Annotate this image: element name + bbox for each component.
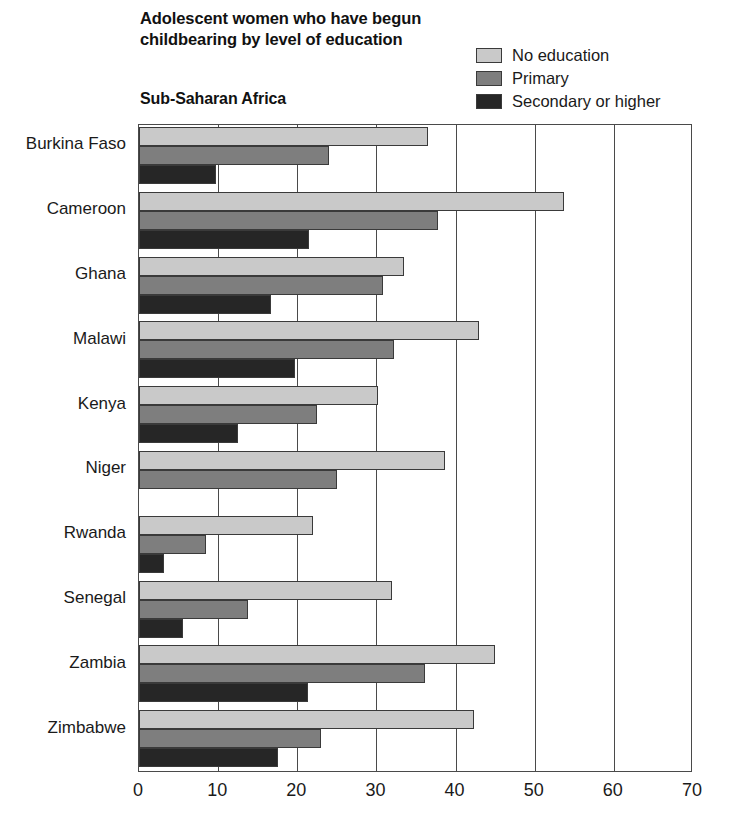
y-axis-label: Kenya [78, 394, 126, 414]
bar[interactable] [139, 230, 309, 249]
bar[interactable] [139, 321, 479, 340]
y-axis-label: Zambia [69, 653, 126, 673]
bar[interactable] [139, 359, 295, 378]
bar[interactable] [139, 470, 337, 489]
bar[interactable] [139, 257, 404, 276]
bar-group [139, 125, 691, 190]
legend-item[interactable]: No education [476, 44, 726, 67]
x-axis-tick-label: 50 [524, 780, 544, 801]
y-axis-label: Malawi [73, 329, 126, 349]
bar-group [139, 255, 691, 320]
x-axis-tick-label: 40 [445, 780, 465, 801]
bar[interactable] [139, 535, 206, 554]
legend-swatch-icon [476, 71, 502, 86]
chart-title-line-2: childbearing by level of education [140, 29, 470, 50]
x-axis-tick-label: 10 [207, 780, 227, 801]
bar[interactable] [139, 645, 495, 664]
y-axis-label: Cameroon [47, 199, 126, 219]
y-axis-label: Rwanda [64, 523, 126, 543]
legend-item[interactable]: Primary [476, 67, 726, 90]
bar[interactable] [139, 340, 394, 359]
bar[interactable] [139, 748, 278, 767]
bar[interactable] [139, 276, 383, 295]
bar-group [139, 449, 691, 514]
y-axis-label: Niger [85, 458, 126, 478]
bar[interactable] [139, 211, 438, 230]
x-axis-tick-label: 20 [286, 780, 306, 801]
y-axis-label: Senegal [64, 588, 126, 608]
y-axis-label: Ghana [75, 264, 126, 284]
legend-label: No education [512, 46, 609, 65]
bar-group [139, 384, 691, 449]
bar[interactable] [139, 729, 321, 748]
legend-swatch-icon [476, 94, 502, 109]
chart-subtitle: Sub-Saharan Africa [140, 90, 286, 108]
x-axis-tick-label: 60 [603, 780, 623, 801]
bar[interactable] [139, 405, 317, 424]
bar-group [139, 319, 691, 384]
bar[interactable] [139, 554, 164, 573]
bar[interactable] [139, 295, 271, 314]
bar[interactable] [139, 192, 564, 211]
bar[interactable] [139, 683, 308, 702]
bar-groups [139, 125, 691, 771]
bar[interactable] [139, 165, 216, 184]
bar-group [139, 708, 691, 773]
legend-item[interactable]: Secondary or higher [476, 90, 726, 113]
x-axis-tick-label: 0 [133, 780, 143, 801]
bar[interactable] [139, 710, 474, 729]
bar-group [139, 579, 691, 644]
x-axis-labels: 010203040506070 [0, 780, 733, 810]
y-axis-label: Burkina Faso [26, 134, 126, 154]
bar[interactable] [139, 451, 445, 470]
bar[interactable] [139, 619, 183, 638]
bar[interactable] [139, 600, 248, 619]
legend-label: Primary [512, 69, 569, 88]
bar[interactable] [139, 424, 238, 443]
y-axis-label: Zimbabwe [48, 718, 126, 738]
bar[interactable] [139, 146, 329, 165]
chart-legend: No educationPrimarySecondary or higher [476, 44, 726, 113]
bar[interactable] [139, 516, 313, 535]
x-axis-tick-label: 30 [365, 780, 385, 801]
chart-title-line-1: Adolescent women who have begun [140, 8, 470, 29]
plot-area [138, 124, 692, 772]
x-axis-tick-label: 70 [682, 780, 702, 801]
bar[interactable] [139, 386, 378, 405]
bar[interactable] [139, 664, 425, 683]
bar[interactable] [139, 127, 428, 146]
bar[interactable] [139, 581, 392, 600]
chart-title: Adolescent women who have begun childbea… [140, 8, 470, 50]
bar-group [139, 190, 691, 255]
legend-swatch-icon [476, 48, 502, 63]
bar-group [139, 514, 691, 579]
bar-group [139, 643, 691, 708]
legend-label: Secondary or higher [512, 92, 661, 111]
